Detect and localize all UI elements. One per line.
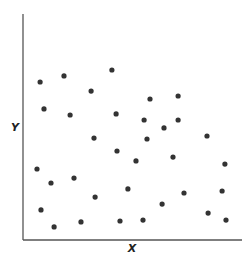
data-point (220, 188, 225, 193)
data-point (170, 155, 175, 160)
data-point (117, 218, 122, 223)
data-point (144, 136, 149, 141)
data-point (222, 162, 227, 167)
y-axis-label: Y (11, 121, 20, 134)
data-point (93, 195, 98, 200)
data-point (48, 180, 53, 185)
data-point (223, 218, 228, 223)
data-point (204, 133, 209, 138)
data-point (161, 125, 166, 130)
data-point (114, 111, 119, 116)
data-point (109, 67, 114, 72)
data-point (71, 176, 76, 181)
data-point (160, 202, 165, 207)
data-point (89, 89, 94, 94)
x-axis-label: X (127, 242, 137, 255)
data-point (34, 166, 39, 171)
data-point (176, 93, 181, 98)
data-point (140, 218, 145, 223)
data-point (206, 211, 211, 216)
data-point (38, 79, 43, 84)
points-group (34, 67, 228, 229)
data-point (142, 117, 147, 122)
data-point (91, 136, 96, 141)
data-point (52, 224, 57, 229)
data-point (147, 96, 152, 101)
data-point (181, 190, 186, 195)
data-point (176, 117, 181, 122)
data-point (61, 73, 66, 78)
data-point (38, 207, 43, 212)
data-point (114, 148, 119, 153)
data-point (125, 186, 130, 191)
data-point (41, 106, 46, 111)
data-point (133, 158, 138, 163)
data-point (68, 112, 73, 117)
scatter-chart: Y X (0, 0, 252, 268)
data-point (78, 219, 83, 224)
